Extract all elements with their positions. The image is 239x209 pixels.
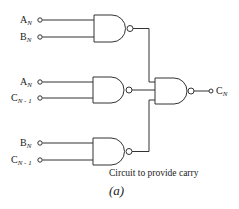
- input-label-b-n-1: BN: [20, 32, 31, 45]
- input-label-a-n-1: AN: [20, 15, 32, 28]
- nand-gate-2: [93, 77, 132, 103]
- input-label-c-n-minus-1-2: CN - 1: [11, 155, 32, 168]
- nand-gate-1: [94, 15, 133, 42]
- input-wires-gate-2: [38, 80, 93, 100]
- input-label-a-n-2: AN: [20, 77, 32, 90]
- output-terminal: [209, 89, 213, 93]
- input-label-b-n-2: BN: [20, 138, 31, 151]
- input-label-c-n-minus-1-1: CN - 1: [11, 93, 32, 106]
- input-wires-gate-1: [38, 18, 94, 39]
- diagram-caption: Circuit to provide carry: [109, 168, 198, 178]
- output-label-c-n: CN: [216, 86, 227, 99]
- input-wires-gate-3: [38, 141, 93, 162]
- figure-label: (a): [109, 183, 124, 199]
- nand-gate-output: [155, 78, 194, 104]
- nand-gate-3: [93, 138, 132, 165]
